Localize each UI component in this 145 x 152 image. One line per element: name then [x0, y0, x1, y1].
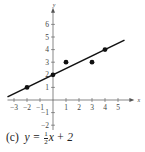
- y-axis-arrow-icon: [51, 8, 55, 13]
- x-tick-label: −3: [10, 103, 18, 112]
- fraction: 12: [44, 131, 48, 146]
- data-point: [64, 60, 69, 65]
- scatter-chart: xy−3−2−112345−2−1123456: [0, 0, 145, 130]
- y-tick-label: −2: [41, 121, 49, 130]
- x-tick-label: 3: [90, 103, 94, 112]
- caption-label: (c): [6, 131, 19, 143]
- x-axis-arrow-icon: [129, 98, 134, 102]
- caption-rhs: x + 2: [49, 131, 73, 143]
- caption-lhs: y =: [25, 131, 41, 143]
- y-tick-label: 4: [45, 45, 49, 54]
- y-tick-label: 1: [45, 83, 49, 92]
- x-tick-label: 5: [116, 103, 120, 112]
- x-tick-label: 2: [77, 103, 81, 112]
- data-point: [90, 60, 95, 65]
- data-point: [103, 47, 108, 52]
- y-tick-label: 3: [45, 58, 49, 67]
- data-point: [25, 85, 30, 90]
- y-tick-label: 5: [45, 33, 49, 42]
- x-axis-label: x: [136, 97, 140, 103]
- x-tick-label: 4: [103, 103, 107, 112]
- y-tick-label: 6: [45, 20, 49, 29]
- y-tick-label: −1: [41, 108, 49, 117]
- data-point: [51, 72, 56, 77]
- x-tick-label: −2: [23, 103, 31, 112]
- chart-caption: (c) y = 12x + 2: [6, 131, 73, 146]
- x-tick-label: 1: [64, 103, 68, 112]
- y-axis-label: y: [52, 2, 56, 8]
